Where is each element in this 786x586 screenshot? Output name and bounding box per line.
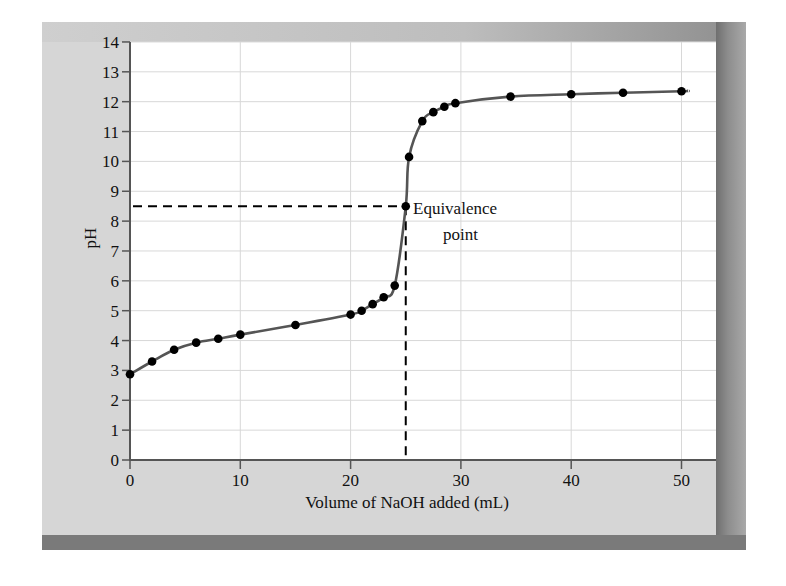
y-tick-label: 13 [102, 63, 119, 82]
data-point [214, 334, 223, 343]
y-tick-label: 6 [111, 272, 120, 291]
y-tick-label: 7 [111, 242, 120, 261]
y-tick-label: 2 [111, 391, 120, 410]
x-tick-label: 10 [232, 471, 249, 490]
y-tick-label: 14 [102, 33, 120, 52]
data-point [291, 321, 300, 330]
data-point [379, 293, 388, 302]
y-tick-label: 1 [111, 421, 120, 440]
y-axis-ticks: 01234567891011121314 [102, 33, 130, 470]
y-tick-label: 9 [111, 182, 120, 201]
data-point [429, 108, 438, 117]
y-tick-label: 3 [111, 361, 120, 380]
x-tick-label: 50 [673, 471, 690, 490]
data-point [619, 88, 628, 97]
data-point [368, 300, 377, 309]
x-axis-title: Volume of NaOH added (mL) [305, 493, 509, 512]
y-tick-label: 8 [111, 212, 120, 231]
data-point [236, 330, 245, 339]
x-tick-label: 20 [342, 471, 359, 490]
x-axis-ticks: 01020304050 [126, 460, 690, 490]
y-tick-label: 10 [102, 152, 119, 171]
annotation-equivalence: Equivalence [413, 199, 497, 218]
data-point [170, 346, 179, 355]
data-point [357, 306, 366, 315]
data-point [405, 153, 414, 162]
y-tick-label: 5 [111, 302, 120, 321]
data-point [192, 338, 201, 347]
x-tick-label: 30 [452, 471, 469, 490]
x-tick-label: 0 [126, 471, 135, 490]
data-point [506, 92, 515, 101]
data-point [451, 99, 460, 108]
data-point [126, 370, 135, 379]
y-tick-label: 4 [111, 332, 120, 351]
data-point [390, 281, 399, 290]
data-point [677, 87, 686, 96]
data-point [440, 102, 449, 111]
y-tick-label: 12 [102, 93, 119, 112]
y-tick-label: 11 [103, 123, 119, 142]
data-point [567, 90, 576, 99]
y-axis-title: pH [81, 228, 100, 249]
data-point [346, 310, 355, 319]
data-point [148, 357, 157, 366]
data-point [418, 117, 427, 126]
annotation-point: point [443, 225, 478, 244]
y-tick-label: 0 [111, 451, 120, 470]
titration-chart: 01234567891011121314 01020304050 Equival… [0, 0, 786, 586]
data-point [401, 202, 410, 211]
x-tick-label: 40 [563, 471, 580, 490]
